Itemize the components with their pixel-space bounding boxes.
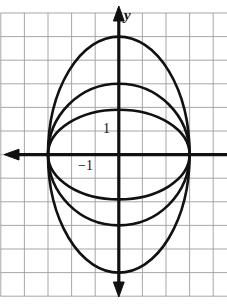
graph-figure: y 1 −1 [0,0,227,304]
axes [4,6,227,297]
tick-label-negative-one: −1 [78,159,93,173]
y-axis-arrow-down [113,282,124,297]
tick-label-one: 1 [103,122,110,136]
y-axis-arrow-up [113,6,124,21]
x-axis-arrow-left [4,149,19,160]
y-axis-label: y [124,8,131,23]
coordinate-plane [0,0,227,304]
